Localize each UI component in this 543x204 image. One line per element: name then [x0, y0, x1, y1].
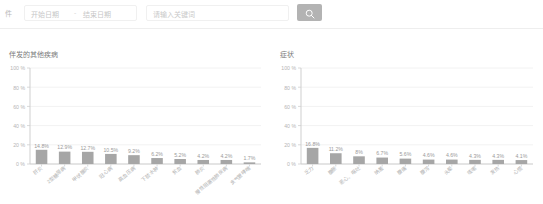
svg-text:心慌: 心慌 [512, 165, 524, 177]
svg-text:肺炎: 肺炎 [194, 165, 206, 177]
svg-text:1.7%: 1.7% [244, 155, 256, 161]
chart-panel-comorbidities: 伴发的其他疾病 0 %20 %40 %60 %80 %100 %14.8%肝炎1… [0, 40, 271, 204]
svg-text:头晕: 头晕 [442, 165, 454, 177]
search-input-placeholder: 请输入关键词 [153, 9, 195, 19]
svg-text:0 %: 0 % [287, 161, 296, 167]
svg-text:4.3%: 4.3% [469, 153, 481, 159]
svg-text:4.2%: 4.2% [197, 153, 209, 159]
svg-text:下肢水肿: 下肢水肿 [140, 165, 160, 183]
chart-title-symptoms: 症状 [280, 49, 294, 59]
svg-text:20 %: 20 % [13, 142, 25, 148]
svg-text:腹胀: 腹胀 [326, 165, 338, 177]
svg-text:40 %: 40 % [13, 123, 25, 129]
svg-text:恶心、呕吐: 恶心、呕吐 [338, 165, 361, 186]
svg-text:100 %: 100 % [10, 65, 25, 71]
search-icon [297, 9, 322, 19]
svg-text:发热: 发热 [489, 165, 501, 177]
date-range-separator: - [74, 9, 76, 16]
svg-text:支气管哮喘: 支气管哮喘 [229, 165, 253, 186]
date-range-start-placeholder[interactable]: 开始日期 [31, 9, 59, 19]
svg-text:4.6%: 4.6% [446, 152, 458, 158]
svg-text:4.2%: 4.2% [220, 153, 232, 159]
svg-text:6.7%: 6.7% [376, 150, 388, 156]
svg-text:咳嗽: 咳嗽 [466, 165, 478, 177]
svg-text:60 %: 60 % [13, 104, 25, 110]
svg-text:9.2%: 9.2% [128, 148, 140, 154]
svg-text:乏力: 乏力 [303, 165, 315, 177]
svg-text:14.8%: 14.8% [34, 143, 49, 149]
search-button[interactable] [297, 4, 322, 21]
toolbar-leading-label: 件 [5, 8, 12, 18]
date-range-end-placeholder[interactable]: 结束日期 [83, 9, 111, 19]
chart-panel-symptoms: 症状 0 %20 %40 %60 %80 %100 %16.8%乏力11.2%腹… [271, 40, 543, 204]
svg-text:60 %: 60 % [284, 104, 296, 110]
svg-text:5.2%: 5.2% [174, 152, 186, 158]
svg-text:5.6%: 5.6% [399, 151, 411, 157]
svg-text:40 %: 40 % [284, 123, 296, 129]
svg-text:10.5%: 10.5% [103, 147, 118, 153]
date-range-picker[interactable]: 开始日期 - 结束日期 [24, 5, 137, 21]
svg-text:20 %: 20 % [284, 142, 296, 148]
svg-text:腹痛: 腹痛 [396, 165, 408, 177]
svg-text:80 %: 80 % [284, 85, 296, 91]
svg-text:12.9%: 12.9% [57, 144, 72, 150]
svg-text:肝炎: 肝炎 [32, 165, 44, 177]
bar-chart-comorbidities: 0 %20 %40 %60 %80 %100 %14.8%肝炎12.9%2型糖尿… [0, 62, 271, 204]
svg-text:100 %: 100 % [281, 65, 296, 71]
svg-text:4.6%: 4.6% [423, 152, 435, 158]
svg-text:12.7%: 12.7% [80, 145, 95, 151]
search-input[interactable]: 请输入关键词 [146, 5, 289, 21]
svg-text:11.2%: 11.2% [329, 146, 344, 152]
bar-chart-symptoms: 0 %20 %40 %60 %80 %100 %16.8%乏力11.2%腹胀8%… [271, 62, 543, 204]
svg-text:腹泻: 腹泻 [419, 165, 431, 177]
svg-text:8%: 8% [355, 149, 363, 155]
svg-text:冠心病: 冠心病 [98, 165, 114, 180]
svg-text:4.1%: 4.1% [515, 153, 527, 159]
svg-text:纳差: 纳差 [373, 165, 385, 177]
chart-title-comorbidities: 伴发的其他疾病 [9, 49, 58, 59]
svg-text:0 %: 0 % [16, 161, 25, 167]
toolbar: 件 开始日期 - 结束日期 请输入关键词 [0, 0, 543, 29]
svg-text:80 %: 80 % [13, 85, 25, 91]
svg-text:高血压病: 高血压病 [117, 165, 137, 183]
svg-text:2型糖尿病: 2型糖尿病 [45, 165, 67, 185]
svg-text:6.2%: 6.2% [151, 151, 163, 157]
svg-text:4.3%: 4.3% [492, 153, 504, 159]
svg-text:16.8%: 16.8% [305, 141, 320, 147]
svg-text:甲状腺炎: 甲状腺炎 [71, 165, 91, 183]
svg-text:贫血: 贫血 [171, 165, 183, 177]
